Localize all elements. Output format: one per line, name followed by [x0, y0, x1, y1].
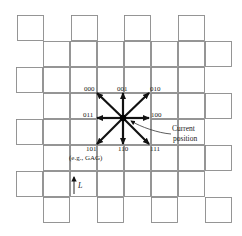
current-position-label-line1: Current [172, 124, 196, 133]
lattice-cell [98, 198, 124, 223]
direction-arrow-111 [123, 118, 149, 144]
lattice-cell [179, 146, 205, 171]
lattice-cell [179, 172, 205, 197]
lattice-cell [98, 42, 124, 67]
lattice-cell [17, 172, 43, 197]
lattice-cell [125, 42, 151, 67]
lattice-cell [72, 16, 98, 41]
lattice-cell [18, 16, 44, 41]
lattice-cell [17, 68, 43, 93]
lattice-cell [179, 42, 205, 67]
lattice-cell [179, 94, 205, 119]
lattice-cell [125, 146, 151, 171]
lattice-cell [44, 68, 70, 93]
direction-label-101: 101 [86, 145, 97, 153]
lattice-cell [71, 120, 97, 145]
current-position-label-line2: position [173, 134, 197, 143]
lattice-cell [17, 120, 43, 145]
current-position-dot [120, 115, 126, 121]
direction-label-010: 010 [150, 85, 161, 93]
lattice-cell [125, 68, 151, 93]
direction-label-000: 000 [84, 85, 95, 93]
lattice-cell [44, 94, 70, 119]
lattice-cell [44, 120, 70, 145]
direction-label-100: 100 [151, 111, 162, 119]
direction-label-001: 001 [117, 85, 128, 93]
direction-label-011: 011 [83, 111, 94, 119]
lattice-cell [98, 172, 124, 197]
direction-label-111: 111 [150, 145, 160, 153]
direction-arrow-101 [97, 118, 123, 144]
lattice-cell [44, 146, 70, 171]
lattice-cell [206, 198, 232, 223]
direction-label-110: 110 [118, 145, 129, 153]
length-label: L [77, 181, 83, 190]
lattice-cell [179, 16, 205, 41]
lattice-cell [152, 198, 178, 223]
lattice-cell [125, 16, 151, 41]
lattice-cell [44, 42, 70, 67]
lattice-cell [206, 146, 232, 171]
example-label: (e.g., GAG) [69, 154, 103, 162]
direction-arrow-010 [123, 93, 149, 118]
lattice-cell [125, 172, 151, 197]
lattice-cell [206, 94, 232, 119]
lattice-cell [179, 68, 205, 93]
lattice-cell [44, 172, 70, 197]
lattice-cell [206, 42, 232, 67]
direction-arrow-000 [97, 93, 123, 118]
lattice-direction-diagram: 000001010011100101110111 (e.g., GAG) Cur… [0, 0, 242, 236]
lattice-cell [152, 172, 178, 197]
lattice-cell [71, 42, 97, 67]
lattice-cell [152, 42, 178, 67]
lattice-cell [44, 198, 70, 223]
